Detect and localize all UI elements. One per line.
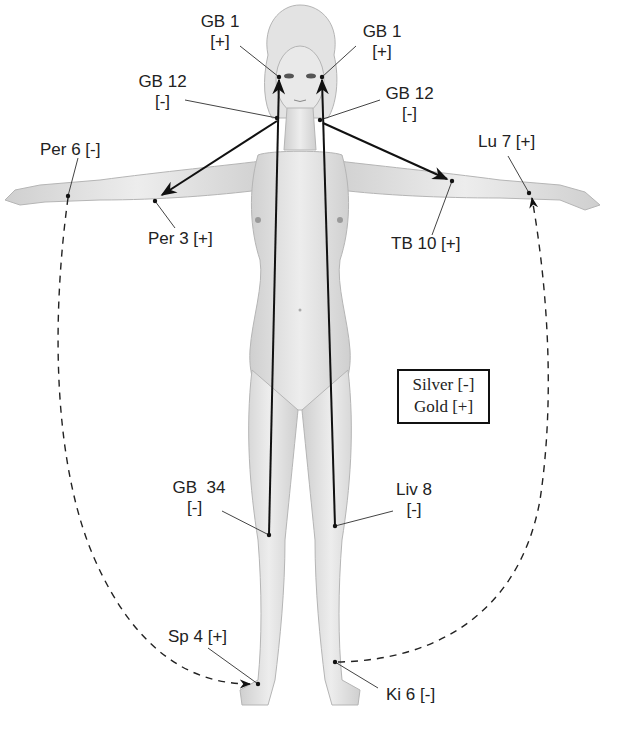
label-liv8: Liv 8 [-] <box>389 480 439 520</box>
right-arm <box>330 160 600 210</box>
label-polarity: [-] <box>163 498 235 518</box>
label-sp4: Sp 4 [+] <box>168 627 227 647</box>
human-figure <box>5 5 600 705</box>
torso <box>250 151 350 410</box>
label-name: GB 1 <box>352 22 412 42</box>
point-gb1-left <box>320 75 324 79</box>
label-gb1-left: GB 1 [+] <box>352 22 412 62</box>
point-tb10 <box>450 179 454 183</box>
label-name: GB 34 <box>163 478 235 498</box>
point-lu7 <box>527 191 531 195</box>
head <box>276 46 324 114</box>
point-ki6 <box>333 660 337 664</box>
legend-gold: Gold [+] <box>399 396 488 418</box>
point-gb12-right <box>275 116 279 120</box>
label-gb34: GB 34 [-] <box>163 478 235 518</box>
label-gb12-right: GB 12 [-] <box>130 72 195 112</box>
label-ki6: Ki 6 [-] <box>386 685 435 705</box>
label-polarity: [-] <box>130 92 195 112</box>
point-gb34 <box>267 533 271 537</box>
label-polarity: [+] <box>190 32 250 52</box>
point-per6 <box>66 194 70 198</box>
label-polarity: [-] <box>377 104 442 124</box>
connection-ki6-lu7 <box>338 198 548 662</box>
connection-per6-sp4 <box>58 198 250 684</box>
label-polarity: [+] <box>352 42 412 62</box>
label-per3: Per 3 [+] <box>148 229 213 249</box>
legend-box: Silver [-] Gold [+] <box>397 369 490 424</box>
acupuncture-diagram: GB 1 [+] GB 1 [+] GB 12 [-] GB 12 [-] Pe… <box>0 0 624 733</box>
legend-silver: Silver [-] <box>399 374 488 396</box>
neck <box>284 108 316 150</box>
point-liv8 <box>333 524 337 528</box>
point-sp4 <box>256 682 260 686</box>
label-per6: Per 6 [-] <box>40 140 100 160</box>
left-arm <box>5 160 270 205</box>
label-polarity: [-] <box>389 500 439 520</box>
point-per3 <box>153 199 157 203</box>
label-name: GB 12 <box>130 72 195 92</box>
label-gb1-right: GB 1 [+] <box>190 12 250 52</box>
eye-left <box>306 74 316 79</box>
label-name: GB 1 <box>190 12 250 32</box>
eye-right <box>284 74 294 79</box>
label-tb10: TB 10 [+] <box>391 234 460 254</box>
point-gb1-right <box>277 75 281 79</box>
left-leg <box>240 370 298 705</box>
label-gb12-left: GB 12 [-] <box>377 84 442 124</box>
label-name: GB 12 <box>377 84 442 104</box>
point-gb12-left <box>318 118 322 122</box>
label-name: Liv 8 <box>389 480 439 500</box>
label-lu7: Lu 7 [+] <box>478 132 535 152</box>
figure-svg <box>0 0 624 733</box>
